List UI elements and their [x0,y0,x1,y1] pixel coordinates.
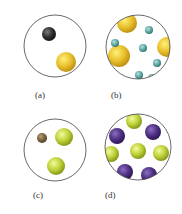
panel-c: (c) [24,119,86,200]
teal-particle [153,59,161,67]
gold-particle [157,37,177,57]
teal-particle [139,44,147,52]
teal-particle [135,71,143,79]
purple-particle [145,124,161,140]
gold-particle [56,52,76,72]
dark-particle [42,27,56,41]
panel-label: (b) [111,90,122,100]
lime-particle [47,157,65,175]
gold-particle [117,13,137,33]
purple-particle [141,167,157,183]
particle-diagram: (a)(b)(c)(d) [0,0,182,214]
panel-label: (c) [33,190,43,200]
panel-a: (a) [24,15,86,100]
brown-particle [37,133,47,143]
panel-label: (a) [35,90,45,100]
lime-particle [130,143,146,159]
teal-particle [111,39,119,47]
panel-b: (b) [106,13,177,100]
teal-particle [148,74,156,82]
panel-label: (d) [105,190,116,200]
lime-particle [55,128,73,146]
purple-particle [109,128,125,144]
gold-particle [108,45,130,67]
lime-particle [153,145,169,161]
teal-particle [145,26,153,34]
panel-d: (d) [103,113,171,200]
